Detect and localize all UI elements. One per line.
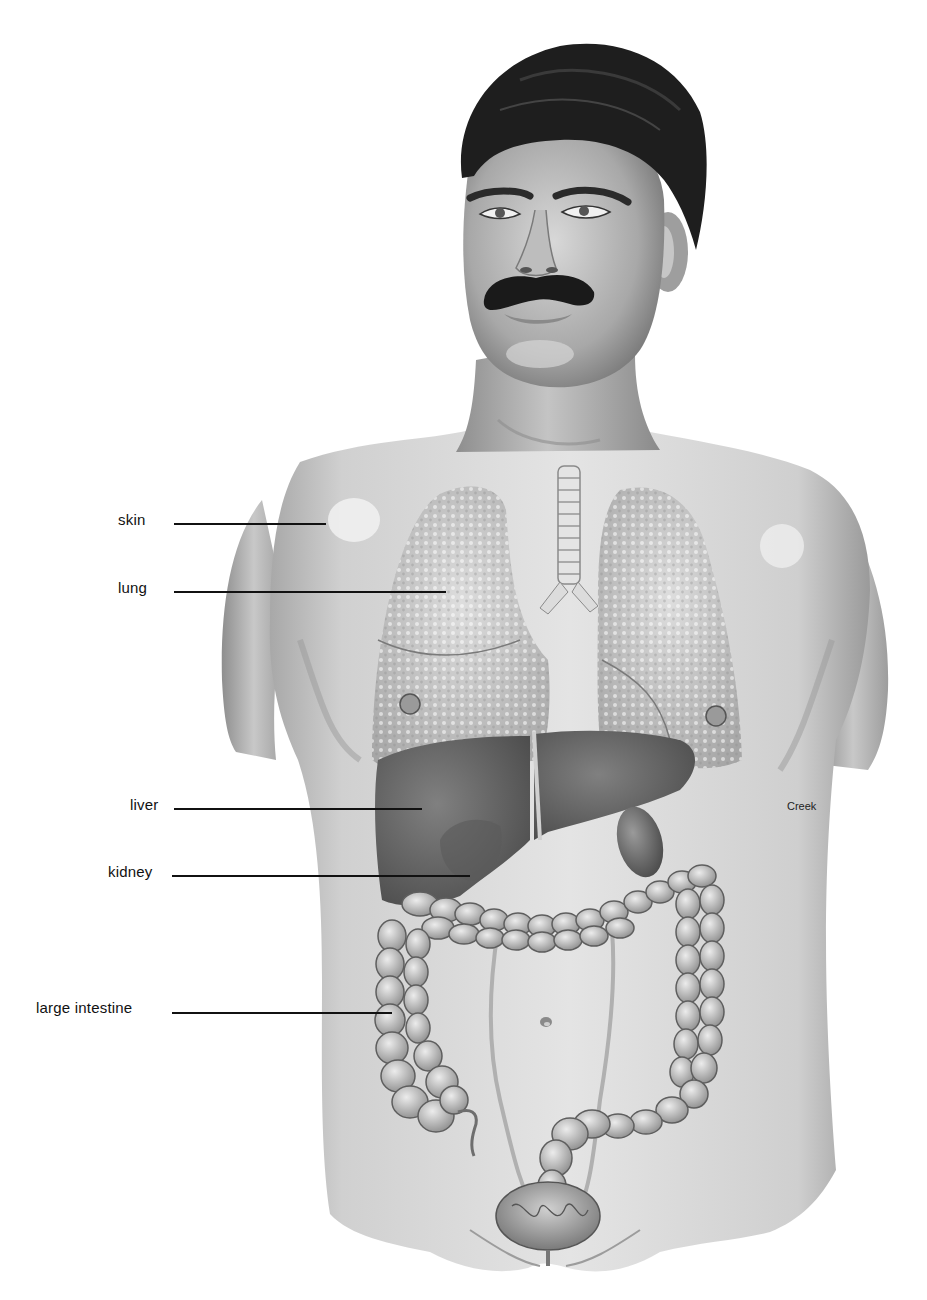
anatomy-illustration bbox=[0, 0, 927, 1300]
nipple-right bbox=[706, 706, 726, 726]
leader-line-skin bbox=[174, 523, 326, 525]
leader-line-liver bbox=[174, 808, 422, 810]
label-text-lung: lung bbox=[118, 580, 147, 595]
label-text-skin: skin bbox=[118, 512, 145, 527]
leader-line-large-intestine bbox=[172, 1012, 392, 1014]
leader-line-lung bbox=[174, 591, 446, 593]
head bbox=[461, 44, 707, 388]
label-text-kidney: kidney bbox=[108, 864, 153, 879]
label-text-liver: liver bbox=[130, 797, 159, 812]
artist-signature: Creek bbox=[787, 800, 816, 812]
nipple-left bbox=[400, 694, 420, 714]
leader-line-kidney bbox=[172, 875, 470, 877]
label-text-large-intestine: large intestine bbox=[36, 1000, 132, 1015]
